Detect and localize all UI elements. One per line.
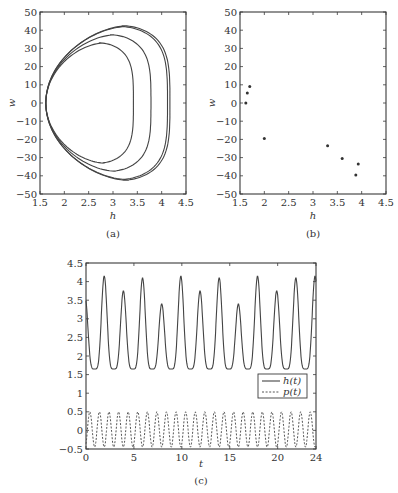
y-tick-label: 2.5 xyxy=(67,332,83,343)
y-axis-label: w xyxy=(6,98,17,107)
y-tick-label: 1 xyxy=(77,388,83,399)
x-tick-label: 0 xyxy=(83,452,89,463)
x-axis-label: h xyxy=(310,210,316,221)
subfigure-caption: (c) xyxy=(194,475,208,486)
series-p xyxy=(86,412,316,447)
orbit-curve xyxy=(46,35,151,172)
x-tick-label: 4.5 xyxy=(378,197,394,208)
y-tick-label: −10 xyxy=(216,116,237,127)
y-tick-label: −30 xyxy=(216,152,237,163)
y-tick-label: 50 xyxy=(24,7,37,18)
plot-frame xyxy=(40,12,186,194)
x-axis-label: h xyxy=(110,210,116,221)
scatter-point xyxy=(246,91,249,94)
series-h xyxy=(86,276,316,369)
legend: h(t)p(t) xyxy=(258,374,307,398)
y-tick-label: −20 xyxy=(216,134,237,145)
y-axis-label: w xyxy=(206,98,217,107)
x-axis-label: t xyxy=(199,458,204,469)
subfigure-caption: (a) xyxy=(106,228,120,239)
y-tick-label: 20 xyxy=(224,61,237,72)
y-tick-label: 0 xyxy=(231,98,237,109)
y-tick-label: −50 xyxy=(216,189,237,200)
y-tick-label: 10 xyxy=(24,79,37,90)
y-tick-label: 0 xyxy=(31,98,37,109)
scatter-point xyxy=(248,85,251,88)
x-tick-label: 2.5 xyxy=(281,197,297,208)
x-tick-label: 3 xyxy=(110,197,116,208)
x-tick-label: 10 xyxy=(175,452,188,463)
x-tick-label: 2.5 xyxy=(81,197,97,208)
plot-frame xyxy=(240,12,386,194)
y-tick-label: 1.5 xyxy=(67,369,83,380)
scatter-point xyxy=(341,157,344,160)
x-tick-label: 3.5 xyxy=(329,197,345,208)
subfigure-caption: (b) xyxy=(306,228,320,239)
x-tick-label: 5 xyxy=(131,452,137,463)
x-tick-label: 4 xyxy=(158,197,164,208)
x-tick-label: 2 xyxy=(261,197,267,208)
y-tick-label: 3.5 xyxy=(67,295,83,306)
x-tick-label: 3 xyxy=(310,197,316,208)
y-tick-label: 4.5 xyxy=(67,258,83,269)
y-tick-label: −40 xyxy=(216,170,237,181)
x-tick-label: 3.5 xyxy=(129,197,145,208)
chart-c: 05101520244.543.532.521.510.50−0.5t(c)h(… xyxy=(59,258,323,487)
x-tick-label: 24 xyxy=(310,452,323,463)
y-tick-label: 20 xyxy=(24,61,37,72)
y-tick-label: 4 xyxy=(77,276,83,287)
y-tick-label: 0 xyxy=(77,425,83,436)
y-tick-label: −50 xyxy=(16,189,37,200)
x-tick-label: 20 xyxy=(271,452,284,463)
x-tick-label: 4.5 xyxy=(178,197,194,208)
y-tick-label: 40 xyxy=(224,25,237,36)
x-tick-label: 2 xyxy=(61,197,67,208)
orbit-curve xyxy=(46,43,134,163)
legend-label-p: p(t) xyxy=(283,386,301,397)
figure: 1.522.533.544.550403020100−10−20−30−40−5… xyxy=(0,0,398,493)
y-tick-label: 2 xyxy=(77,351,83,362)
legend-label-h: h(t) xyxy=(283,375,301,386)
y-tick-label: 0.5 xyxy=(67,406,83,417)
scatter-point xyxy=(326,144,329,147)
y-tick-label: −40 xyxy=(16,170,37,181)
y-tick-label: −10 xyxy=(16,116,37,127)
chart-a: 1.522.533.544.550403020100−10−20−30−40−5… xyxy=(6,7,194,240)
y-tick-label: 50 xyxy=(224,7,237,18)
y-tick-label: −0.5 xyxy=(59,444,83,455)
y-tick-label: 10 xyxy=(224,79,237,90)
y-tick-label: 3 xyxy=(77,313,83,324)
chart-b: 1.522.533.544.550403020100−10−20−30−40−5… xyxy=(206,7,394,240)
orbit-curve xyxy=(46,27,168,180)
y-tick-label: 30 xyxy=(24,43,37,54)
y-tick-label: −30 xyxy=(16,152,37,163)
x-tick-label: 4 xyxy=(358,197,364,208)
y-tick-label: 40 xyxy=(24,25,37,36)
x-tick-label: 15 xyxy=(223,452,236,463)
scatter-point xyxy=(244,102,247,105)
scatter-point xyxy=(263,137,266,140)
y-tick-label: −20 xyxy=(16,134,37,145)
scatter-point xyxy=(354,173,357,176)
y-tick-label: 30 xyxy=(224,43,237,54)
scatter-point xyxy=(357,162,360,165)
